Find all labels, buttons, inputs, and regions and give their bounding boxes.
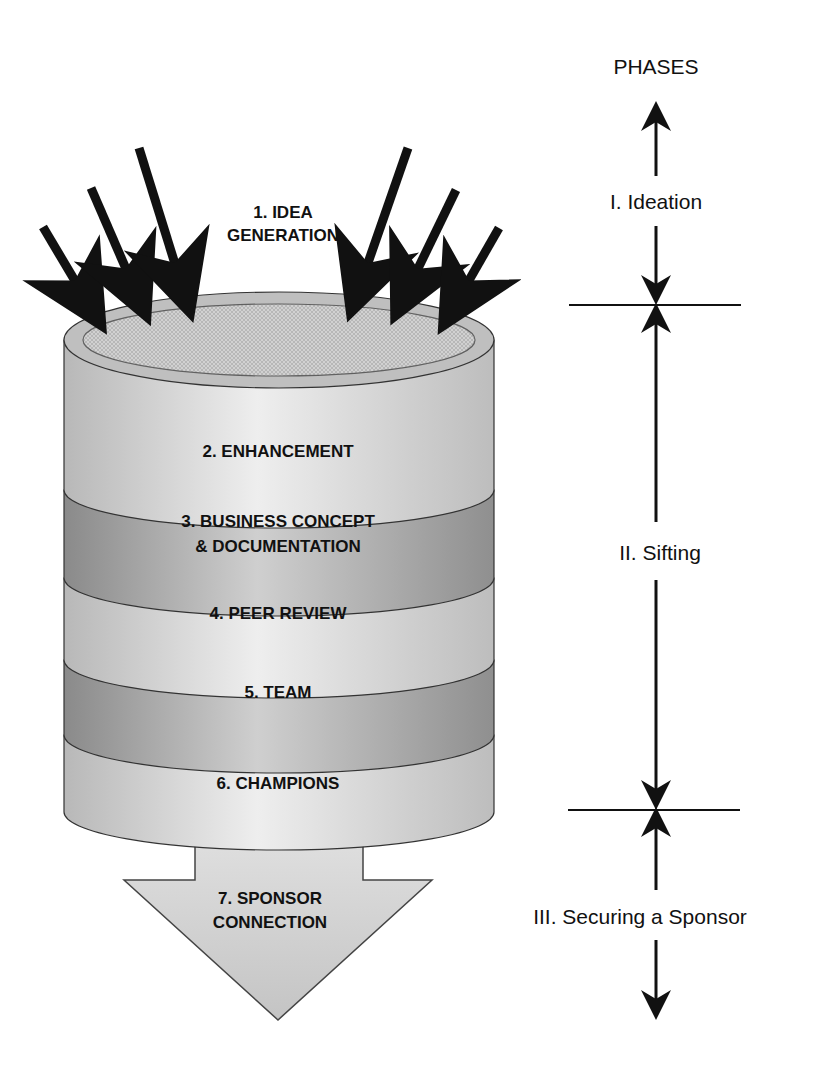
phase-sifting-label: II. Sifting [619,541,701,564]
stage-6-label: 6. CHAMPIONS [217,774,340,793]
innovation-funnel-diagram: 1. IDEA GENERATION 2. ENHANCEMENT 3. BUS… [0,0,828,1076]
phase-sponsor-label: III. Securing a Sponsor [533,905,747,928]
stage-1-label-line1: 1. IDEA [253,203,313,222]
stage-2-label: 2. ENHANCEMENT [202,442,354,461]
stage-3-label-line1: 3. BUSINESS CONCEPT [181,512,375,531]
stage-4-label: 4. PEER REVIEW [210,604,348,623]
stage-3-label-line2: & DOCUMENTATION [195,537,361,556]
phase-ideation-label: I. Ideation [610,190,702,213]
stage-7-label-line2: CONNECTION [213,913,327,932]
stage-1-label-line2: GENERATION [227,226,339,245]
funnel-cylinder [64,292,494,850]
idea-input-arrows [43,148,499,296]
input-arrow-4 [362,148,408,280]
phases-header: PHASES [613,55,698,78]
input-arrow-5 [410,190,456,285]
input-arrow-2 [91,188,133,285]
input-arrow-1 [43,227,84,296]
input-arrow-6 [460,228,499,296]
input-arrow-3 [139,148,180,280]
stage-7-label-line1: 7. SPONSOR [218,889,322,908]
stage-5-label: 5. TEAM [244,683,311,702]
